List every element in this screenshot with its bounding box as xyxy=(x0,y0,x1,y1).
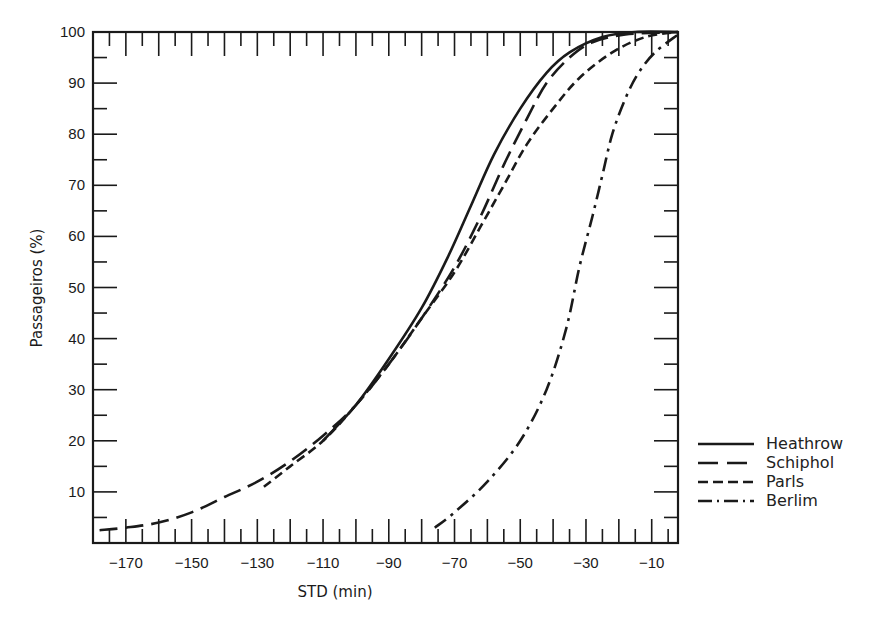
legend-item-paris: Parls xyxy=(698,472,843,491)
axis-ticks xyxy=(93,32,678,543)
y-tick-label: 50 xyxy=(68,279,85,296)
legend-item-heathrow: Heathrow xyxy=(698,434,843,453)
legend-label: Berlim xyxy=(766,491,818,510)
x-tick-label: −10 xyxy=(639,554,664,571)
plot-border xyxy=(93,32,678,543)
short-dash-swatch-icon xyxy=(698,480,754,484)
y-tick-label: 70 xyxy=(68,176,85,193)
y-tick-label: 40 xyxy=(68,330,85,347)
plot-frame xyxy=(93,32,678,543)
dash-dot-swatch-icon xyxy=(698,499,754,503)
legend-label: Schiphol xyxy=(766,453,834,472)
series-berlim-line xyxy=(435,35,678,528)
x-tick-label: −30 xyxy=(573,554,598,571)
y-tick-label: 20 xyxy=(68,432,85,449)
series-paris-line xyxy=(264,32,678,487)
cumulative-chart: −170−150−130−110−90−70−50−30−10 10203040… xyxy=(0,0,871,625)
y-tick-label: 60 xyxy=(68,227,85,244)
x-tick-label: −50 xyxy=(508,554,533,571)
x-tick-label: −90 xyxy=(376,554,401,571)
y-tick-label: 100 xyxy=(60,23,85,40)
legend-item-berlim: Berlim xyxy=(698,491,843,510)
x-tick-label: −130 xyxy=(240,554,274,571)
y-tick-label: 90 xyxy=(68,74,85,91)
y-tick-label: 10 xyxy=(68,483,85,500)
legend-label: Parls xyxy=(766,472,804,491)
legend-item-schiphol: Schiphol xyxy=(698,453,843,472)
long-dash-swatch-icon xyxy=(698,461,754,465)
y-tick-labels: 102030405060708090100 xyxy=(60,23,85,500)
y-tick-label: 30 xyxy=(68,381,85,398)
y-tick-label: 80 xyxy=(68,125,85,142)
legend: Heathrow Schiphol Parls Berlim xyxy=(698,434,843,510)
x-tick-label: −170 xyxy=(109,554,143,571)
x-tick-label: −70 xyxy=(442,554,467,571)
series-schiphol-line xyxy=(100,32,678,530)
x-tick-label: −110 xyxy=(307,554,340,571)
y-axis-title: Passageiros (%) xyxy=(28,229,46,348)
legend-label: Heathrow xyxy=(766,434,843,453)
x-tick-label: −150 xyxy=(175,554,209,571)
solid-line-swatch-icon xyxy=(698,442,754,446)
data-series xyxy=(100,32,678,531)
x-tick-labels: −170−150−130−110−90−70−50−30−10 xyxy=(109,554,664,571)
x-axis-title: STD (min) xyxy=(298,583,373,601)
